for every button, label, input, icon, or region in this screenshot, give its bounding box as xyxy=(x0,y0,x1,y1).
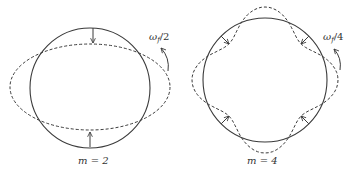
mode-label-m4: m = 4 xyxy=(247,155,278,166)
inward-arrow-icon xyxy=(301,116,309,124)
panel-m4: ωf/4 m = 4 xyxy=(192,7,343,166)
rotation-arrow-icon xyxy=(334,49,340,70)
mode-diagram: ωf/2 m = 2 ωf/4 m = 4 xyxy=(0,0,349,174)
inward-arrow-icon xyxy=(221,36,229,44)
unperturbed-circle-m2 xyxy=(30,28,150,148)
rotation-label-m2: ωf/2 xyxy=(149,31,169,44)
inward-arrows-diagonal-icon xyxy=(221,36,309,124)
rotation-arrow-icon xyxy=(161,48,168,71)
inward-arrow-icon xyxy=(221,116,229,124)
panel-m2: ωf/2 m = 2 xyxy=(10,28,170,166)
perturbed-four-lobe-m4 xyxy=(192,7,338,153)
perturbed-ellipse-m2 xyxy=(10,44,170,130)
rotation-label-m4: ωf/4 xyxy=(323,31,343,44)
mode-label-m2: m = 2 xyxy=(78,155,109,166)
inward-arrow-icon xyxy=(301,36,309,44)
